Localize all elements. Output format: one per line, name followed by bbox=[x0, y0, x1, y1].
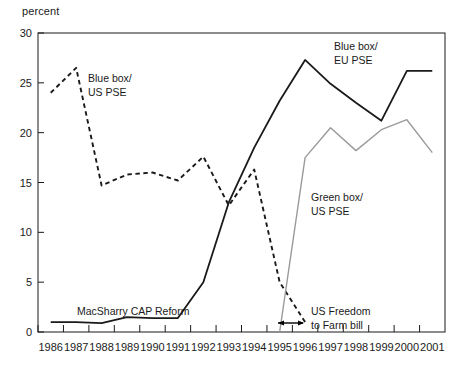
x-tick-label: 1997 bbox=[318, 341, 342, 353]
x-tick-label: 1996 bbox=[293, 341, 317, 353]
x-tick-label: 1990 bbox=[140, 341, 164, 353]
annotation-blue-box-eu-pse: EU PSE bbox=[334, 54, 373, 66]
x-tick-label: 2000 bbox=[395, 341, 419, 353]
x-tick-label: 1992 bbox=[191, 341, 215, 353]
x-tick-label: 1987 bbox=[64, 341, 88, 353]
annotation-blue-box-eu-pse: Blue box/ bbox=[334, 40, 378, 52]
x-tick-label: 1998 bbox=[344, 341, 368, 353]
x-tick-label: 1993 bbox=[217, 341, 241, 353]
y-tick-label: 30 bbox=[20, 27, 32, 39]
x-tick-label: 1999 bbox=[369, 341, 393, 353]
y-tick-label: 10 bbox=[20, 226, 32, 238]
annotation-blue-box-us-pse: Blue box/ bbox=[88, 72, 132, 84]
x-tick-label: 1988 bbox=[89, 341, 113, 353]
x-tick-label: 2001 bbox=[420, 341, 444, 353]
x-tick-label: 1994 bbox=[242, 341, 266, 353]
annotation-green-box-us-pse: US PSE bbox=[311, 205, 350, 217]
y-tick-label: 25 bbox=[20, 77, 32, 89]
x-tick-label: 1986 bbox=[38, 341, 62, 353]
y-tick-label: 5 bbox=[26, 276, 32, 288]
x-tick-label: 1989 bbox=[115, 341, 139, 353]
x-tick-label: 1991 bbox=[166, 341, 190, 353]
chart-container: percent 302520151050 1986198719881989199… bbox=[0, 0, 459, 373]
annotation-macsharry-cap-reform: MacSharry CAP Reform bbox=[77, 305, 190, 317]
y-tick-label: 0 bbox=[26, 326, 32, 338]
annotation-green-box-us-pse: Green box/ bbox=[311, 191, 363, 203]
annotation-us-freedom-to-farm-bill: US Freedom bbox=[311, 305, 371, 317]
y-tick-label: 15 bbox=[20, 177, 32, 189]
chart-plot-area: 302520151050 198619871988198919901991199… bbox=[0, 0, 459, 373]
y-tick-label: 20 bbox=[20, 127, 32, 139]
annotation-blue-box-us-pse: US PSE bbox=[88, 86, 127, 98]
x-tick-label: 1995 bbox=[267, 341, 291, 353]
annotation-us-freedom-to-farm-bill: to Farm bill bbox=[311, 319, 363, 331]
